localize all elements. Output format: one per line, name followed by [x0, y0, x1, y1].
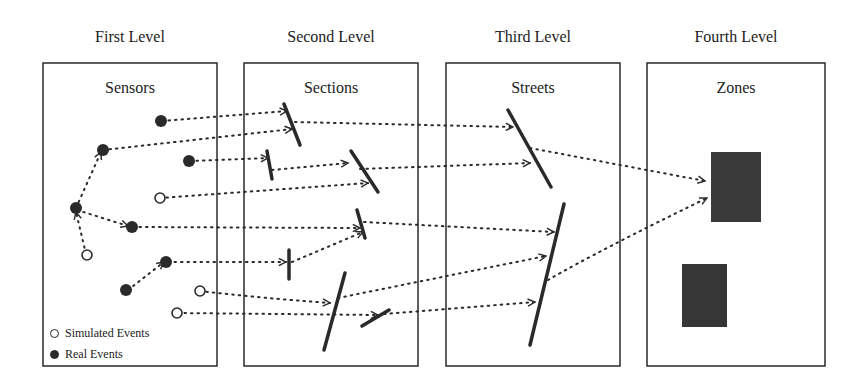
real-event-dot: [155, 115, 167, 127]
section-segment: [324, 273, 345, 350]
section-segment: [267, 151, 272, 179]
legend-real-label: Real Events: [65, 347, 123, 362]
simulated-event-dot: [155, 193, 165, 203]
real-event-dot: [120, 284, 132, 296]
real-event-dot: [126, 221, 138, 233]
simulated-event-dot: [195, 286, 205, 296]
sensors-box: [43, 63, 217, 366]
real-event-dot: [70, 202, 82, 214]
section-segment: [362, 310, 389, 326]
legend-simulated: Simulated Events: [50, 326, 149, 341]
segments: [267, 104, 564, 350]
box-title-sections: Sections: [242, 79, 420, 97]
box-title-zones: Zones: [647, 79, 825, 97]
street-segment: [508, 110, 551, 187]
simulated-event-dot: [82, 250, 92, 260]
box-title-sensors: Sensors: [41, 79, 219, 97]
streets-box: [446, 63, 620, 366]
section-segment: [351, 151, 378, 192]
section-segment: [284, 104, 300, 145]
filled-circle-icon: [50, 350, 59, 359]
dotted-arrows: [76, 111, 707, 315]
zone-area: [682, 264, 727, 327]
legend-simulated-label: Simulated Events: [65, 326, 149, 341]
simulated-event-sensors: [82, 193, 205, 318]
zone-area: [711, 152, 761, 222]
real-event-dot: [97, 144, 109, 156]
open-circle-icon: [50, 329, 59, 338]
legend-real: Real Events: [50, 347, 123, 362]
real-event-dot: [183, 155, 195, 167]
real-event-dot: [160, 256, 172, 268]
box-title-streets: Streets: [444, 79, 622, 97]
simulated-event-dot: [172, 308, 182, 318]
